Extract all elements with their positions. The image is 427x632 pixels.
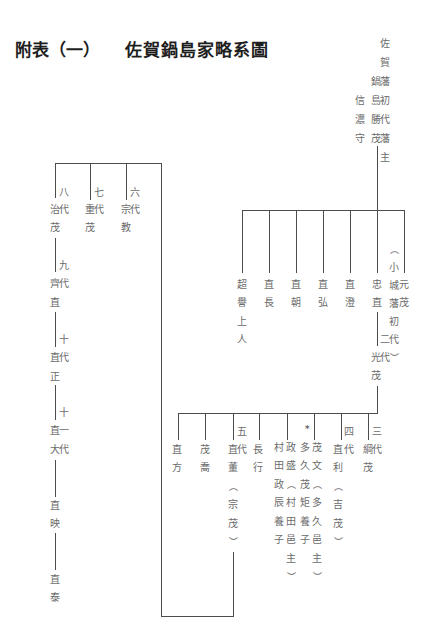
child-node-name: 直澄 — [344, 276, 356, 313]
glyph: 直 — [317, 276, 329, 295]
lord-name: 直董︵宗茂︶ — [227, 441, 239, 552]
glyph: 光 — [370, 349, 382, 368]
glyph: 茂 — [362, 459, 374, 478]
glyph: ︵ — [388, 241, 400, 259]
child-node-note: 村田政辰養子 — [273, 439, 285, 550]
child-node-name: 政盛︵村田邑主︶ — [285, 439, 297, 587]
glyph: 弘 — [317, 294, 329, 313]
glyph: 矩 — [299, 494, 311, 513]
connector-line — [55, 312, 56, 347]
glyph: 久 — [311, 513, 323, 532]
child-node-name: 直弘 — [317, 276, 329, 313]
glyph: 四 — [343, 423, 355, 442]
child-node-note: 多久茂矩養子 — [299, 439, 311, 550]
connector-line — [55, 385, 56, 420]
glyph: 人 — [236, 331, 248, 350]
connector-line — [55, 238, 56, 272]
glyph: 茂 — [49, 219, 61, 237]
glyph: 直 — [332, 441, 344, 460]
glyph: 譽 — [236, 294, 248, 313]
glyph: 綱 — [362, 441, 374, 460]
connector-line — [341, 413, 342, 440]
glyph: 七 — [93, 184, 105, 202]
connector-line — [377, 312, 378, 346]
connector-line — [55, 163, 162, 164]
connector-line — [55, 533, 56, 570]
glyph: ︵ — [227, 478, 239, 497]
connector-line — [259, 413, 260, 440]
glyph: 養 — [299, 513, 311, 532]
connector-line — [242, 210, 243, 273]
connector-line — [90, 163, 91, 200]
genealogy-page: 附表（一） 佐賀鍋島家略系圖 佐賀藩初代藩主 鍋島勝茂 信濃守 超譽上人 直長 … — [0, 0, 427, 632]
connector-line — [323, 210, 324, 273]
glyph: 八 — [58, 184, 70, 202]
glyph: ︶ — [285, 568, 297, 587]
lord-name: 直利︵吉茂︶ — [332, 441, 344, 552]
table-label: 附表（一） — [15, 40, 100, 60]
descendant-name: 直泰 — [49, 571, 61, 608]
glyph: 大 — [49, 441, 61, 460]
glyph: 文 — [311, 457, 323, 476]
glyph: 直 — [49, 349, 61, 368]
glyph: 喬 — [199, 459, 211, 478]
connector-line — [55, 460, 56, 497]
glyph: 直 — [49, 422, 61, 441]
glyph: 藩 — [388, 295, 400, 313]
glyph: 鍋 — [370, 72, 382, 91]
glyph: ︶ — [311, 568, 323, 587]
glyph: 直 — [49, 294, 61, 313]
child-node-name: 直朝 — [290, 276, 302, 313]
glyph: 主 — [379, 148, 391, 167]
glyph: 宗 — [227, 496, 239, 515]
glyph: 泰 — [49, 589, 61, 608]
glyph: ︵ — [285, 476, 297, 495]
glyph: 養 — [273, 513, 285, 532]
glyph: 政 — [285, 439, 297, 458]
lord-name: 光茂 — [370, 349, 382, 386]
connector-line — [178, 413, 179, 440]
glyph: 村 — [273, 439, 285, 458]
glyph: 行 — [252, 459, 264, 478]
glyph: 濃 — [354, 110, 366, 129]
glyph: 三 — [371, 423, 383, 442]
glyph: 守 — [354, 129, 366, 148]
glyph: 多 — [311, 494, 323, 513]
child-node-name: 茂文︵多久邑主︶ — [311, 439, 323, 587]
glyph: 代 — [343, 441, 355, 460]
lord-name: 宗教 — [120, 201, 132, 236]
child-node-name: 超譽上人 — [236, 276, 248, 350]
connector-line — [296, 210, 297, 273]
glyph: 茂 — [299, 476, 311, 495]
glyph: 茂 — [332, 515, 344, 534]
glyph: 六 — [129, 184, 141, 202]
glyph: 村 — [285, 494, 297, 513]
glyph: 島 — [370, 91, 382, 110]
glyph: 小 — [388, 259, 400, 277]
glyph: ︵ — [311, 476, 323, 495]
glyph: 直 — [227, 441, 239, 460]
glyph: ︶ — [332, 533, 344, 552]
connector-line — [350, 210, 351, 273]
asterisk-mark: * — [305, 424, 310, 434]
connector-line — [55, 163, 56, 198]
glyph: 朝 — [290, 294, 302, 313]
glyph: 茂 — [311, 439, 323, 458]
glyph: 佐 — [379, 34, 391, 53]
child-node-name: 直方 — [171, 441, 183, 478]
child-node-name: 長行 — [252, 441, 264, 478]
glyph: 信 — [354, 91, 366, 110]
connector-line — [404, 210, 405, 273]
connector-line — [377, 210, 378, 273]
glyph: 宗 — [120, 201, 132, 219]
glyph: 映 — [49, 515, 61, 534]
glyph: 十 — [58, 331, 70, 350]
descendant-name: 直映 — [49, 497, 61, 534]
glyph: 子 — [299, 531, 311, 550]
glyph: 茂 — [84, 219, 96, 237]
glyph: 直 — [371, 294, 383, 313]
glyph: 田 — [285, 513, 297, 532]
connector-line — [233, 552, 234, 616]
glyph: 邑 — [311, 531, 323, 550]
glyph: 茂 — [199, 441, 211, 460]
